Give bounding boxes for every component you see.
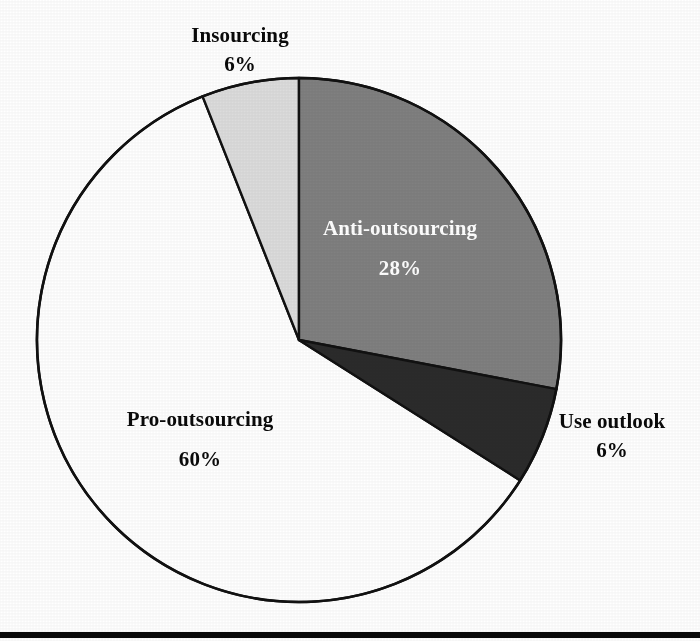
pie-label-pro-outsourcing: Pro-outsourcing 60% bbox=[60, 406, 340, 473]
pie-label-anti-outsourcing-name: Anti-outsourcing bbox=[275, 215, 525, 241]
pie-label-insourcing-name: Insourcing bbox=[120, 22, 360, 48]
pie-label-anti-outsourcing: Anti-outsourcing 28% bbox=[275, 215, 525, 282]
pie-label-insourcing: Insourcing 6% bbox=[120, 22, 360, 78]
pie-label-use-outlook-name: Use outlook bbox=[530, 408, 694, 434]
pie-label-pro-outsourcing-name: Pro-outsourcing bbox=[60, 406, 340, 432]
bottom-horizontal-rule bbox=[0, 632, 700, 638]
pie-chart-svg bbox=[0, 0, 700, 641]
pie-chart-figure: Insourcing 6% Anti-outsourcing 28% Pro-o… bbox=[0, 0, 700, 641]
pie-label-use-outlook-value: 6% bbox=[530, 437, 694, 463]
pie-label-use-outlook: Use outlook 6% bbox=[530, 408, 694, 464]
pie-label-insourcing-value: 6% bbox=[120, 51, 360, 77]
pie-label-anti-outsourcing-value: 28% bbox=[275, 255, 525, 281]
pie-label-pro-outsourcing-value: 60% bbox=[60, 446, 340, 472]
